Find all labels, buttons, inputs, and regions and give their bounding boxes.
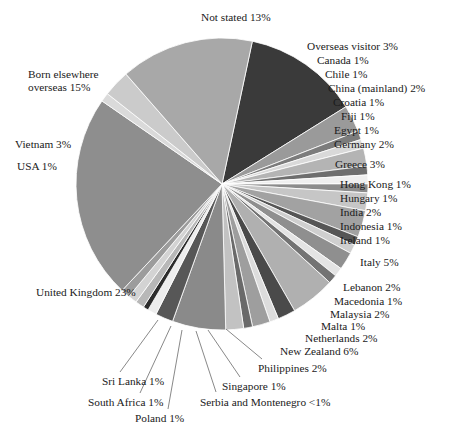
pie-chart-svg: Not stated 13%Overseas visitor 3%Canada … [0, 0, 461, 435]
slice-label-serbia: Serbia and Montenegro <1% [200, 396, 330, 409]
slice-label-united-kingdom: United Kingdom 23% [36, 286, 146, 299]
slice-label-vietnam: Vietnam 3% [15, 138, 71, 151]
label-leader-line [226, 329, 262, 359]
slice-label-italy: Italy 5% [360, 256, 399, 269]
label-leader-line [120, 320, 158, 372]
slice-label-fiji: Fiji 1% [341, 110, 375, 123]
slice-label-usa: USA 1% [17, 160, 57, 173]
label-leader-line [168, 330, 182, 409]
slice-label-croatia: Croatia 1% [333, 96, 384, 109]
slice-label-poland: Poland 1% [135, 412, 184, 425]
slice-label-netherlands: Netherlands 2% [305, 332, 377, 345]
slice-label-macedonia: Macedonia 1% [334, 295, 402, 308]
slice-label-chile: Chile 1% [325, 68, 367, 81]
slice-label-new-zealand: New Zealand 6% [280, 345, 358, 358]
slice-label-overseas-visitor: Overseas visitor 3% [307, 40, 398, 53]
slice-label-indonesia: Indonesia 1% [340, 220, 402, 233]
slice-label-hungary: Hungary 1% [340, 192, 397, 205]
slice-label-germany: Germany 2% [334, 138, 394, 151]
slice-label-born-elsewhere: Born elsewhere overseas 15% [28, 68, 138, 94]
slice-label-singapore: Singapore 1% [222, 380, 286, 393]
slice-label-hong-kong: Hong Kong 1% [340, 178, 411, 191]
slice-label-canada: Canada 1% [317, 54, 369, 67]
slice-label-lebanon: Lebanon 2% [343, 281, 400, 294]
slice-label-philippines: Philippines 2% [258, 362, 327, 375]
slice-label-sri-lanka: Sri Lanka 1% [102, 375, 164, 388]
slice-label-greece: Greece 3% [335, 158, 385, 171]
slice-label-india: India 2% [340, 206, 381, 219]
slice-label-ireland: Ireland 1% [340, 234, 390, 247]
slice-label-china: China (mainland) 2% [328, 82, 425, 95]
slice-label-egypt: Egypt 1% [334, 124, 379, 137]
label-leader-line [196, 331, 216, 392]
slice-label-not-stated: Not stated 13% [201, 11, 271, 24]
pie-chart-figure: Not stated 13%Overseas visitor 3%Canada … [0, 0, 461, 435]
slice-label-south-africa: South Africa 1% [88, 396, 163, 409]
